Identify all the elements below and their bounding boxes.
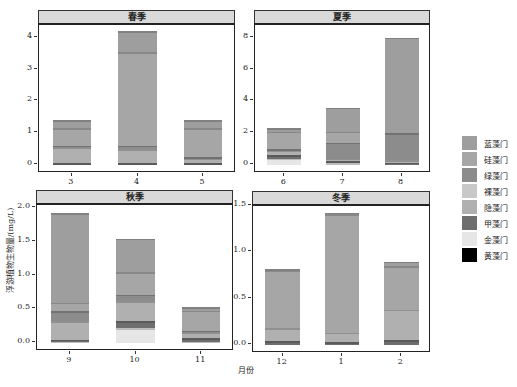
bar-11: [182, 307, 220, 343]
segment: [116, 328, 154, 343]
plot-area: [254, 23, 430, 172]
segment: [326, 161, 360, 163]
segment: [53, 148, 91, 164]
segment: [184, 157, 222, 159]
segment: [116, 239, 154, 273]
segment: [184, 159, 222, 164]
panel-title: 春季: [38, 10, 235, 24]
y-tick-label: 3: [12, 63, 32, 72]
panel-title: 冬季: [252, 191, 430, 205]
x-tick-label: 2: [390, 357, 410, 366]
x-tick-label: 6: [273, 177, 293, 186]
x-tick-label: 7: [332, 177, 352, 186]
segment: [385, 163, 419, 165]
segment: [184, 128, 222, 157]
plot-area: [36, 203, 233, 350]
legend-label: 隐藻门: [484, 202, 508, 213]
segment: [116, 272, 154, 294]
segment: [116, 295, 154, 302]
panel-3: 冬季: [252, 191, 430, 352]
bar-3: [53, 120, 91, 165]
x-axis-label: 月份: [238, 364, 254, 375]
bar-4: [118, 31, 156, 165]
y-axis-label: 浮游植物生物量/(mg/L): [4, 186, 15, 316]
legend-swatch: [462, 168, 477, 182]
segment: [267, 132, 301, 150]
segment: [267, 128, 301, 131]
legend-swatch: [462, 232, 477, 246]
segment: [53, 163, 91, 165]
legend-swatch: [462, 248, 477, 262]
legend-swatch: [462, 136, 477, 150]
segment: [118, 146, 156, 149]
legend-swatch: [462, 216, 477, 230]
segment: [265, 269, 299, 271]
segment: [182, 307, 220, 310]
segment: [384, 340, 418, 345]
segment: [326, 132, 360, 143]
segment: [385, 133, 419, 160]
bar-10: [116, 239, 154, 343]
y-tick-label: 4: [12, 31, 32, 40]
segment: [51, 342, 89, 343]
x-tick-label: 1: [331, 357, 351, 366]
x-tick-label: 10: [125, 355, 145, 364]
y-tick-label: 0.0: [10, 336, 30, 345]
segment: [118, 52, 156, 146]
segment: [326, 143, 360, 159]
panel-title: 秋季: [36, 190, 233, 204]
y-tick-label: 8: [228, 31, 248, 40]
x-tick-label: 9: [59, 355, 79, 364]
x-tick-label: 4: [127, 177, 147, 186]
segment: [265, 328, 299, 341]
segment: [51, 213, 89, 303]
legend-label: 金藻门: [484, 234, 508, 245]
segment: [267, 155, 301, 158]
segment: [385, 160, 419, 162]
segment: [384, 266, 418, 310]
y-tick-label: 1: [12, 126, 32, 135]
segment: [182, 333, 220, 338]
x-tick-label: 8: [391, 177, 411, 186]
segment: [51, 321, 89, 339]
segment: [265, 341, 299, 345]
bar-12: [265, 269, 299, 345]
x-tick-label: 5: [192, 177, 212, 186]
y-tick-label: 6: [228, 63, 248, 72]
bar-1: [325, 213, 359, 346]
segment: [182, 338, 220, 341]
y-tick-label: 0.0: [226, 338, 246, 347]
segment: [325, 213, 359, 215]
segment: [267, 159, 301, 165]
y-tick-label: 2: [12, 94, 32, 103]
segment: [184, 120, 222, 128]
y-tick-label: 0.5: [226, 292, 246, 301]
legend-label: 黄藻门: [484, 250, 508, 261]
segment: [326, 163, 360, 165]
segment: [267, 151, 301, 156]
panel-title: 夏季: [254, 10, 430, 24]
bar-2: [384, 262, 418, 345]
legend-label: 硅藻门: [484, 154, 508, 165]
segment: [182, 331, 220, 333]
y-tick-label: 1.0: [226, 245, 246, 254]
segment: [384, 262, 418, 267]
segment: [53, 120, 91, 128]
segment: [265, 271, 299, 328]
segment: [51, 303, 89, 312]
y-tick-label: 0: [228, 158, 248, 167]
segment: [325, 342, 359, 345]
y-tick-label: 0: [12, 158, 32, 167]
legend-swatch: [462, 200, 477, 214]
panel-2: 秋季: [36, 190, 233, 350]
bar-6: [267, 128, 301, 165]
plot-area: [252, 204, 430, 352]
segment: [116, 321, 154, 328]
segment: [53, 128, 91, 146]
segment: [182, 311, 220, 331]
segment: [182, 342, 220, 343]
legend-label: 裸藻门: [484, 186, 508, 197]
legend-label: 绿藻门: [484, 170, 508, 181]
legend-label: 蓝藻门: [484, 138, 508, 149]
legend-swatch: [462, 152, 477, 166]
